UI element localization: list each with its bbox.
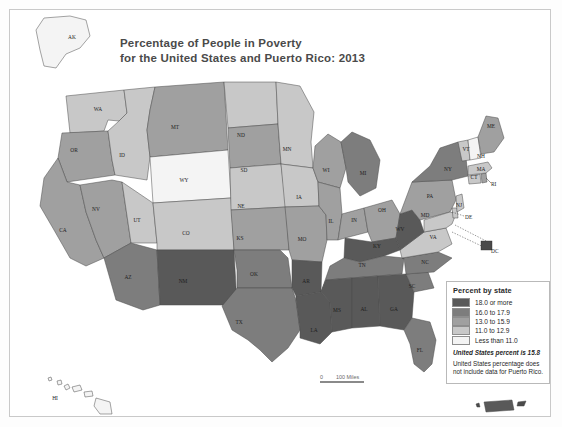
legend-footnote: United States percentage does not includ… — [453, 360, 544, 375]
hawaii-islet — [72, 385, 82, 392]
ri-callout-label: RI — [491, 181, 496, 187]
scale-bar-distance: 100 Miles — [336, 374, 359, 380]
legend-label: 18.0 or more — [475, 299, 512, 306]
state-label-ga: GA — [390, 306, 398, 312]
state-label-tn: TN — [358, 262, 365, 268]
de-callout-label: DE — [465, 214, 472, 220]
state-label-ne: NE — [237, 203, 245, 209]
state-sd — [228, 124, 281, 168]
state-tx — [222, 288, 300, 362]
state-or — [58, 131, 115, 182]
legend-row: 16.0 to 17.9 — [452, 307, 544, 316]
state-label-ky: KY — [373, 243, 381, 249]
puerto-rico-islet — [476, 403, 480, 407]
legend-row: 18.0 or more — [452, 298, 544, 307]
state-label-tx: TX — [235, 319, 242, 325]
state-nm — [157, 250, 237, 305]
legend-row: 11.0 to 12.9 — [452, 326, 544, 335]
state-label-ut: UT — [133, 217, 141, 223]
state-label-ct: CT — [471, 174, 479, 180]
legend-row: Less than 11.0 — [452, 336, 544, 345]
state-label-pa: PA — [427, 193, 434, 199]
state-label-mi: MI — [360, 170, 367, 176]
state-label-fl: FL — [417, 347, 423, 353]
legend-label: 16.0 to 17.9 — [475, 309, 510, 316]
state-label-ak: AK — [68, 34, 76, 40]
legend-swatch — [452, 317, 470, 326]
legend-label: Less than 11.0 — [475, 337, 518, 344]
map-legend: Percent by state 18.0 or more16.0 to 17.… — [446, 281, 550, 384]
state-label-ms: MS — [333, 307, 341, 313]
state-la — [296, 292, 332, 344]
state-label-md: MD — [421, 212, 430, 218]
legend-swatch — [452, 308, 470, 317]
state-nd — [224, 82, 278, 128]
legend-us-percent: United States percent is 15.8 — [453, 349, 544, 356]
state-label-mn: MN — [283, 146, 292, 152]
state-label-az: AZ — [124, 274, 131, 280]
state-label-id: ID — [119, 152, 125, 158]
scale-bar-zero: 0 — [320, 374, 324, 380]
state-in — [338, 208, 368, 240]
state-label-mt: MT — [171, 124, 180, 130]
state-label-mo: MO — [298, 236, 307, 242]
hawaii-islet — [57, 380, 62, 385]
state-label-nd: ND — [237, 132, 245, 138]
state-label-il: IL — [328, 218, 333, 224]
state-label-sd: SD — [241, 167, 248, 173]
state-mi — [341, 132, 380, 196]
state-label-va: VA — [429, 234, 436, 240]
puerto-rico-islet — [517, 401, 526, 406]
state-label-nh: NH — [477, 153, 485, 159]
state-label-ok: OK — [250, 271, 258, 277]
state-label-or: OR — [70, 147, 78, 153]
state-label-ks: KS — [237, 235, 244, 241]
state-mn — [276, 82, 314, 168]
state-ia — [281, 164, 319, 207]
state-label-sc: SC — [409, 283, 416, 289]
state-label-nm: NM — [179, 278, 188, 284]
state-label-nv: NV — [92, 206, 100, 212]
state-az — [104, 243, 160, 310]
state-pr — [484, 400, 514, 412]
legend-row: 13.0 to 15.9 — [452, 317, 544, 326]
state-label-oh: OH — [378, 207, 386, 213]
state-label-wi: WI — [323, 167, 330, 173]
state-mo — [285, 206, 327, 262]
state-label-nj: NJ — [456, 202, 462, 208]
legend-swatch — [452, 326, 470, 335]
state-ks — [231, 207, 289, 250]
state-label-wy: WY — [180, 177, 189, 183]
scale-bar-line — [320, 381, 364, 383]
state-label-al: AL — [360, 306, 367, 312]
state-ak — [36, 16, 90, 68]
state-label-in: IN — [351, 217, 357, 223]
legend-swatch — [452, 336, 470, 345]
state-label-wv: WV — [396, 226, 405, 232]
state-label-nc: NC — [421, 259, 429, 265]
hawaii-islet — [94, 398, 112, 414]
state-label-wa: WA — [94, 106, 102, 112]
state-label-co: CO — [182, 230, 190, 236]
state-label-ny: NY — [444, 166, 452, 172]
state-label-ar: AR — [302, 278, 310, 284]
state-label-me: ME — [487, 123, 496, 129]
state-al — [352, 276, 380, 328]
state-label-ia: IA — [296, 194, 302, 200]
state-label-vt: VT — [462, 146, 470, 152]
state-me — [478, 116, 504, 154]
legend-class-list: 18.0 or more16.0 to 17.913.0 to 15.911.0… — [452, 298, 544, 345]
state-co — [153, 198, 234, 250]
state-ok — [234, 250, 292, 288]
state-label-ca: CA — [59, 227, 67, 233]
hawaii-islet — [84, 391, 93, 397]
legend-label: 11.0 to 12.9 — [475, 327, 509, 334]
legend-swatch — [452, 298, 470, 307]
state-label-ma: MA — [477, 166, 486, 172]
state-hi — [64, 384, 70, 390]
dc-callout-label: DC — [491, 248, 499, 254]
state-wy — [150, 150, 231, 203]
state-mt — [147, 82, 228, 157]
legend-heading: Percent by state — [453, 286, 544, 295]
scale-bar: 0 100 Miles — [320, 374, 386, 383]
